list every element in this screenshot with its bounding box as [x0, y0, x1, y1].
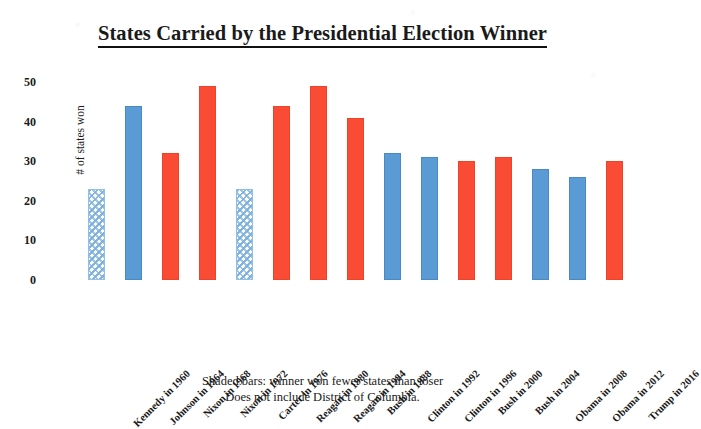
- y-axis-tick-0: 0: [6, 273, 36, 288]
- chart-title-text: States Carried by the Presidential Elect…: [98, 22, 547, 48]
- bar-johnson-in-1964: [125, 106, 142, 280]
- page-title: States Carried by the Presidential Elect…: [0, 22, 645, 48]
- footnote-dc-excluded: Does not include District of Columbia.: [0, 390, 645, 406]
- bar-obama-in-2012: [569, 177, 586, 280]
- bar-obama-in-2008: [532, 169, 549, 280]
- bar-bush-in-2004: [495, 157, 512, 280]
- y-axis-tick-40: 40: [6, 114, 36, 129]
- bar-kennedy-in-1960: [88, 189, 105, 280]
- chart-footnotes: Shaded bars: winner won fewer states tha…: [0, 374, 645, 405]
- bar-trump-in-2016: [606, 161, 623, 280]
- bar-nixon-in-1968: [162, 153, 179, 280]
- y-axis-tick-30: 30: [6, 154, 36, 169]
- chart-plot-area: # of states won 01020304050 Kennedy in 1…: [78, 82, 633, 280]
- bar-bush-in-2000: [458, 161, 475, 280]
- bar-clinton-in-1996: [421, 157, 438, 280]
- bar-bush-in-1988: [347, 118, 364, 280]
- bar-nixon-in-1972: [199, 86, 216, 280]
- y-axis-title: # of states won: [74, 70, 86, 210]
- bar-carter-in-1976: [236, 189, 253, 280]
- footnote-shaded-bars: Shaded bars: winner won fewer states tha…: [0, 374, 645, 390]
- bar-clinton-in-1992: [384, 153, 401, 280]
- y-axis-tick-20: 20: [6, 193, 36, 208]
- y-axis-tick-10: 10: [6, 233, 36, 248]
- bar-reagan-in-1984: [310, 86, 327, 280]
- bar-reagan-in-1980: [273, 106, 290, 280]
- y-axis-tick-50: 50: [6, 75, 36, 90]
